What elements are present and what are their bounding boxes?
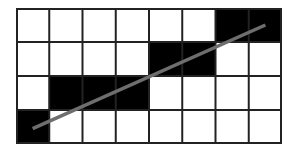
filled-pixel-cell bbox=[216, 8, 249, 42]
pixel-grid-diagram bbox=[16, 8, 282, 144]
rasterization-grid bbox=[16, 8, 282, 144]
filled-pixel-cell bbox=[49, 76, 82, 110]
filled-pixel-cell bbox=[116, 76, 149, 110]
